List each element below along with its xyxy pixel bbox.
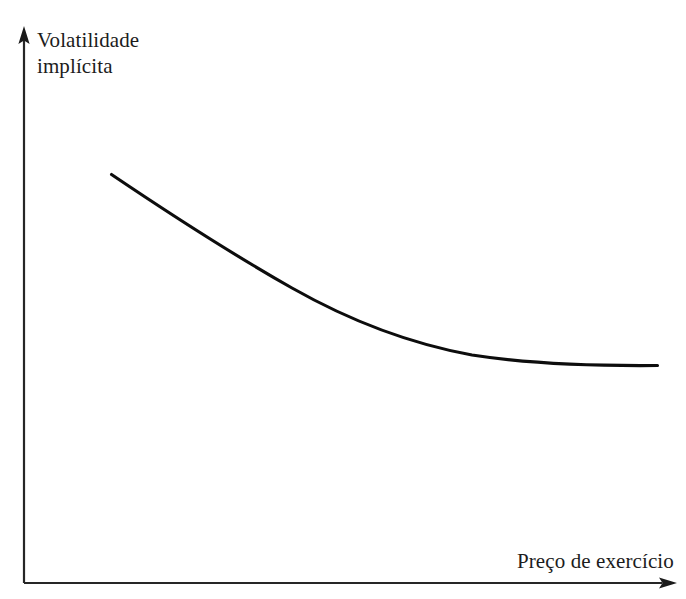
y-axis-label: Volatilidade implícita [37,27,139,79]
implied-volatility-curve [112,175,658,366]
volatility-skew-figure: Volatilidade implícita Preço de exercíci… [0,0,686,599]
x-axis-label: Preço de exercício [517,548,674,574]
chart-canvas [0,0,686,599]
